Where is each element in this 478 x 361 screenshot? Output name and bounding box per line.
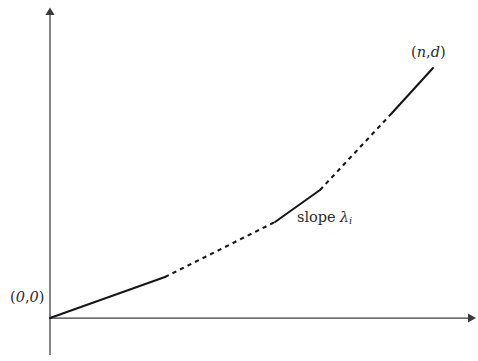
- origin-x-value: 0: [16, 289, 25, 305]
- endpoint-x-symbol: n: [417, 44, 426, 60]
- x-axis-arrowhead: [468, 313, 476, 322]
- figure-canvas: [0, 0, 478, 361]
- endpoint-y-symbol: d: [431, 44, 440, 60]
- endpoint-close-paren: ): [440, 44, 446, 60]
- origin-y-value: 0: [30, 289, 39, 305]
- lambda-symbol: λ: [340, 209, 349, 225]
- curve-group: [50, 68, 433, 318]
- slope-word: slope: [297, 209, 336, 225]
- curve-segment-solid-5: [392, 68, 433, 113]
- curve-segment-dashed-2: [165, 222, 275, 277]
- origin-close-paren: ): [39, 289, 45, 305]
- endpoint-label: (n,d): [411, 45, 446, 60]
- curve-segment-dashed-4: [320, 113, 392, 190]
- origin-label: (0,0): [10, 290, 44, 305]
- lambda-subscript: i: [349, 215, 352, 226]
- y-axis-arrowhead: [45, 8, 54, 16]
- figure-container: (0,0) (n,d) slopeλi: [0, 0, 478, 361]
- slope-label: slopeλi: [297, 210, 352, 226]
- curve-segment-solid-1: [50, 277, 165, 318]
